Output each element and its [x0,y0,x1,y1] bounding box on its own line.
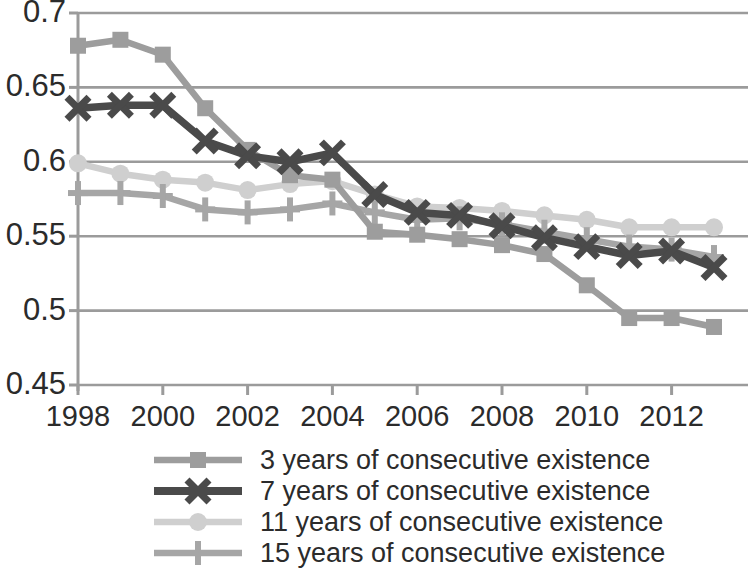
plus-marker [110,181,130,205]
y-tick-label: 0.7 [23,0,66,27]
square-marker [706,319,722,335]
square-marker [367,224,383,240]
x-axis-ticks [78,385,672,395]
square-marker [150,445,246,475]
square-marker [536,246,552,262]
square-marker [409,227,425,243]
y-tick-label: 0.65 [6,70,66,101]
circle-marker [705,218,723,236]
square-marker [494,237,510,253]
square-marker [190,452,206,468]
square-marker [579,277,595,293]
square-marker [664,310,680,326]
y-tick-label: 0.6 [23,145,66,176]
legend-label: 3 years of consecutive existence [246,445,650,475]
square-marker [70,38,86,54]
y-tick-label: 0.5 [23,294,66,325]
legend-label: 15 years of consecutive existence [246,538,665,568]
circle-marker [196,174,214,192]
circle-marker [150,507,246,537]
plus-marker [280,197,300,221]
square-marker [155,47,171,63]
plus-marker [188,541,208,565]
plus-marker [238,200,258,224]
legend-item[interactable]: 3 years of consecutive existence [150,444,750,475]
circle-marker [189,513,207,531]
chart-legend: 3 years of consecutive existence7 years … [150,444,750,568]
legend-item[interactable]: 11 years of consecutive existence [150,506,750,537]
y-tick-label: 0.45 [6,368,66,399]
square-marker [197,100,213,116]
square-marker [452,231,468,247]
x-tick-label: 2012 [622,402,722,431]
plus-marker [153,184,173,208]
square-marker [112,32,128,48]
legend-item[interactable]: 7 years of consecutive existence [150,475,750,506]
line-chart: 0.70.650.60.550.50.45 199820002002200420… [0,0,752,570]
x-marker [150,476,246,506]
circle-marker [69,154,87,172]
plus-marker [68,181,88,205]
circle-marker [578,211,596,229]
circle-marker [239,181,257,199]
legend-item[interactable]: 15 years of consecutive existence [150,537,750,568]
y-tick-label: 0.55 [6,219,66,250]
plus-marker [195,197,215,221]
circle-marker [111,165,129,183]
square-marker [621,310,637,326]
circle-marker [663,218,681,236]
legend-label: 11 years of consecutive existence [246,507,663,537]
data-series-layer [67,32,725,335]
circle-marker [620,218,638,236]
square-marker [324,172,340,188]
legend-label: 7 years of consecutive existence [246,476,650,506]
plus-marker [150,538,246,568]
plus-marker [322,191,342,215]
